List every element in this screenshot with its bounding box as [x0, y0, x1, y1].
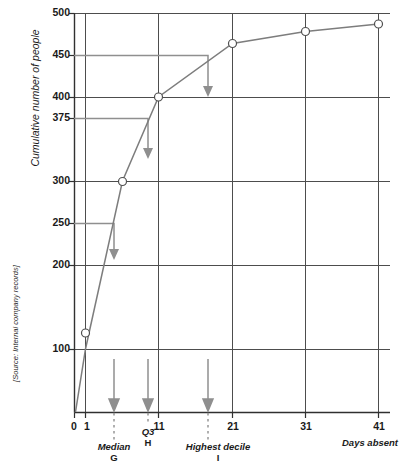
annotation-q3-h-title: Q3 [142, 426, 155, 437]
y-tick-label-250: 250 [52, 216, 70, 228]
data-point-11-400 [155, 93, 163, 101]
x-tick-label-41: 41 [373, 420, 385, 432]
x-tick-label-1: 1 [84, 420, 90, 432]
annotation-highest-decile-i-letter: I [186, 452, 250, 463]
annotation-highest-decile-i: Highest decile I [186, 441, 250, 463]
annotation-median-g-title: Median [98, 441, 131, 452]
y-tick-label-100: 100 [52, 342, 70, 354]
annotation-highest-decile-i-title: Highest decile [186, 441, 250, 452]
annotation-q3-h-letter: H [142, 437, 155, 448]
y-axis-title: Cumulative number of people [26, 6, 44, 196]
source-note: [Source: Internal company records] [7, 252, 23, 402]
y-tick-label-400: 400 [52, 90, 70, 102]
annotation-median-g-letter: G [98, 452, 131, 463]
x-tick-label-0: 0 [71, 420, 77, 432]
data-point-21-466 [229, 40, 237, 48]
data-point-41-497 [375, 20, 383, 28]
x-tick-label-11: 11 [153, 420, 164, 432]
y-tick-label-300: 300 [52, 174, 70, 186]
x-axis-title: Days absent [342, 437, 398, 448]
data-point-1-100 [82, 329, 90, 337]
y-tick-label-500: 500 [52, 6, 70, 18]
x-tick-label-21: 21 [227, 420, 239, 432]
annotation-q3-h: Q3 H [142, 426, 155, 448]
data-point-6-300 [119, 178, 127, 186]
x-tick-label-31: 31 [300, 420, 312, 432]
y-tick-label-450: 450 [52, 48, 70, 60]
y-tick-label-200: 200 [52, 258, 70, 270]
data-point-31-486 [302, 28, 310, 36]
cumulative-frequency-chart [0, 0, 419, 475]
y-tick-label-375: 375 [52, 111, 70, 123]
annotation-median-g: Median G [98, 441, 131, 463]
